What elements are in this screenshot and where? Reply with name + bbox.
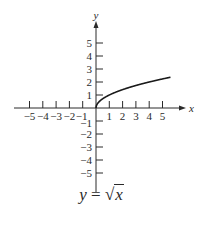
x-tick-label: −2	[64, 110, 76, 122]
axes: xy	[14, 9, 194, 192]
y-axis-arrow-icon	[94, 21, 99, 28]
equation-caption: y = √x	[0, 185, 203, 205]
x-tick-label: 5	[160, 110, 166, 122]
y-tick-label: −3	[80, 141, 92, 153]
x-tick-label: −3	[50, 110, 62, 122]
x-axis-arrow-icon	[179, 106, 186, 111]
x-tick-label: 4	[146, 110, 152, 122]
sqrt-curve	[96, 77, 170, 108]
y-tick-label: −2	[80, 128, 92, 140]
y-tick-label: −4	[80, 154, 92, 166]
x-tick-label: −5	[24, 110, 36, 122]
y-tick-label: 3	[87, 63, 93, 75]
caption-equals: =	[91, 185, 101, 204]
y-tick-label: 5	[87, 37, 93, 49]
x-tick-label: 1	[107, 110, 113, 122]
y-tick-label: 1	[87, 89, 93, 101]
x-axis-label: x	[188, 102, 194, 114]
y-axis-label: y	[93, 9, 99, 21]
y-tick-label: −5	[80, 167, 92, 179]
y-tick-label: −1	[80, 117, 92, 129]
x-tick-label: −4	[37, 110, 49, 122]
y-tick-label: 2	[87, 76, 93, 88]
x-tick-label: 2	[120, 110, 126, 122]
square-root: √x	[105, 185, 124, 205]
y-tick-label: 4	[87, 50, 93, 62]
x-tick-label: 3	[133, 110, 139, 122]
radicand: x	[114, 184, 124, 204]
radical-sign: √	[105, 185, 114, 204]
caption-lhs: y	[79, 185, 87, 204]
